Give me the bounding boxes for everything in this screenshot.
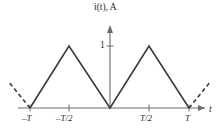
x-tick-label-neg-T-text: –T — [22, 113, 32, 123]
x-tick-label-pos-T: T — [185, 114, 190, 123]
continuation-dashed-right — [189, 81, 211, 108]
x-axis-label: t — [209, 105, 212, 115]
y-tick-label-one-text: 1 — [100, 40, 105, 50]
x-axis-label-text: t — [209, 104, 212, 114]
y-axis-label-text: i(t), A — [94, 2, 117, 12]
x-tick-label-neg-T: –T — [22, 114, 32, 123]
y-axis-arrow-icon — [107, 25, 113, 33]
y-tick-label-one: 1 — [100, 41, 105, 51]
x-tick-label-pos-T-half-text: T/2 — [140, 113, 152, 123]
x-axis-arrow-icon — [198, 105, 205, 111]
y-axis-label: i(t), A — [94, 3, 117, 13]
x-tick-label-pos-T-text: T — [185, 113, 190, 123]
waveform-plot — [0, 0, 220, 131]
continuation-dashed-left — [8, 81, 30, 108]
x-tick-label-pos-T-half: T/2 — [140, 114, 152, 123]
waveform-figure: i(t), A 1 t –T –T/2 T/2 T — [0, 0, 220, 131]
x-tick-label-neg-T-half-text: –T/2 — [56, 113, 73, 123]
x-tick-label-neg-T-half: –T/2 — [56, 114, 73, 123]
